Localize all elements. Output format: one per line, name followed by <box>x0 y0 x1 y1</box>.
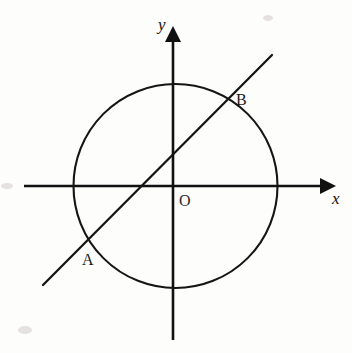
paper-smudge-bottom <box>18 326 32 334</box>
x-axis-label: x <box>331 189 340 208</box>
paper-smudge-left <box>1 183 13 189</box>
y-axis-arrow-icon <box>165 26 181 42</box>
geometry-figure: y x O A B <box>0 0 352 353</box>
point-b-label: B <box>236 91 247 108</box>
y-axis-label: y <box>156 15 166 34</box>
point-a-label: A <box>82 251 94 268</box>
figure-canvas: y x O A B <box>0 0 352 353</box>
secant-line-shape <box>43 55 272 285</box>
origin-label: O <box>179 192 191 209</box>
paper-smudge-top <box>263 15 273 21</box>
